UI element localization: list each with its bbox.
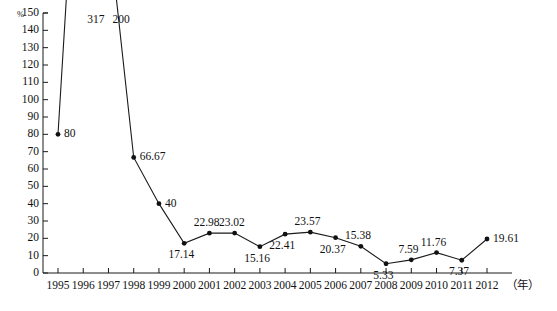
series-line: [58, 0, 487, 264]
data-point: [257, 244, 262, 249]
data-point-label: 23.02: [219, 217, 245, 229]
data-point-label: 7.37: [449, 266, 469, 278]
data-point: [232, 231, 237, 236]
y-tick-label: 60: [28, 163, 40, 175]
data-point-label: 17.14: [168, 249, 194, 261]
y-tick-label: 40: [28, 198, 40, 210]
data-point-label: 200: [112, 14, 129, 26]
data-point: [333, 235, 338, 240]
y-tick-label: 0: [33, 267, 39, 279]
y-tick-label: 70: [28, 146, 40, 158]
data-point: [157, 201, 162, 206]
data-point: [283, 232, 288, 237]
data-point-label: 22.98: [194, 217, 220, 229]
y-tick-label: 50: [28, 180, 40, 192]
data-point-label: 23.57: [295, 216, 321, 228]
y-tick-label: 80: [28, 128, 40, 140]
data-point: [384, 261, 389, 266]
data-point: [207, 231, 212, 236]
data-series-line: [58, 0, 487, 264]
y-tick-label: 30: [28, 215, 40, 227]
y-tick-label: 140: [22, 24, 39, 36]
data-point-label: 15.16: [244, 253, 270, 265]
y-tick-label: 120: [22, 59, 39, 71]
data-point-label: 20.37: [320, 244, 346, 256]
y-tick-label: 110: [22, 76, 39, 88]
data-point-label: 40: [165, 198, 177, 210]
data-point: [182, 241, 187, 246]
data-point: [409, 257, 414, 262]
data-point: [434, 250, 439, 255]
x-tick-label: 2012: [470, 280, 504, 292]
y-tick-label: 100: [22, 94, 39, 106]
data-point: [308, 230, 313, 235]
data-point-label: 11.76: [421, 237, 446, 249]
data-point-label: 80: [64, 128, 76, 140]
data-point-label: 19.61: [493, 233, 519, 245]
y-tick-label: 150: [22, 7, 39, 19]
data-point: [459, 258, 464, 263]
y-tick-label: 20: [28, 232, 40, 244]
y-tick-label: 130: [22, 42, 39, 54]
data-point-label: 5.33: [373, 270, 393, 282]
data-point-label: 7.59: [398, 244, 418, 256]
data-point: [358, 244, 363, 249]
line-chart-plot: [0, 0, 557, 311]
x-axis-tick-marks: [58, 268, 487, 273]
data-point-label: 22.41: [269, 240, 295, 252]
data-point-label: 15.38: [345, 230, 371, 242]
y-axis-tick-marks: [43, 13, 48, 273]
data-point: [56, 132, 61, 137]
data-point: [485, 237, 490, 242]
data-point: [131, 155, 136, 160]
y-tick-label: 90: [28, 111, 40, 123]
data-point-label: 66.67: [140, 151, 166, 163]
data-point-label: 317: [87, 14, 104, 26]
figure-container: % 0102030405060708090100110120130140150 …: [0, 0, 557, 311]
x-axis-unit-label: （年）: [506, 280, 539, 292]
y-tick-label: 10: [28, 250, 40, 262]
axes: [43, 13, 512, 273]
